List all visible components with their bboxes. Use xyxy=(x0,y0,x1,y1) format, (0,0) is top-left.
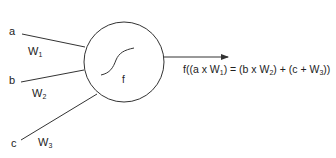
weight-text: W xyxy=(38,136,48,148)
weight-label-w3: W3 xyxy=(38,137,52,149)
weight-label-w2: W2 xyxy=(32,88,46,100)
formula-part: ) = (b x W xyxy=(224,63,270,75)
input-label-a: a xyxy=(9,26,15,37)
weight-subscript: 3 xyxy=(48,142,52,149)
output-formula: f((a x W1) = (b x W2) + (c + W3)) xyxy=(183,63,330,76)
input-edge-c xyxy=(21,94,97,140)
weight-subscript: 2 xyxy=(42,93,46,100)
weight-label-w1: W1 xyxy=(28,46,42,58)
neuron-node xyxy=(84,22,164,102)
formula-part: f((a x W xyxy=(183,63,220,75)
input-label-b: b xyxy=(9,75,15,86)
weight-text: W xyxy=(32,87,42,99)
function-label: f xyxy=(122,75,125,85)
weight-subscript: 1 xyxy=(38,51,42,58)
input-edge-b xyxy=(21,70,84,82)
formula-part: ) + (c + W xyxy=(273,63,319,75)
neuron-diagram xyxy=(0,0,336,158)
input-label-c: c xyxy=(11,138,17,149)
formula-part: )) xyxy=(323,63,330,75)
weight-text: W xyxy=(28,45,38,57)
sigmoid-curve-icon xyxy=(101,48,134,75)
